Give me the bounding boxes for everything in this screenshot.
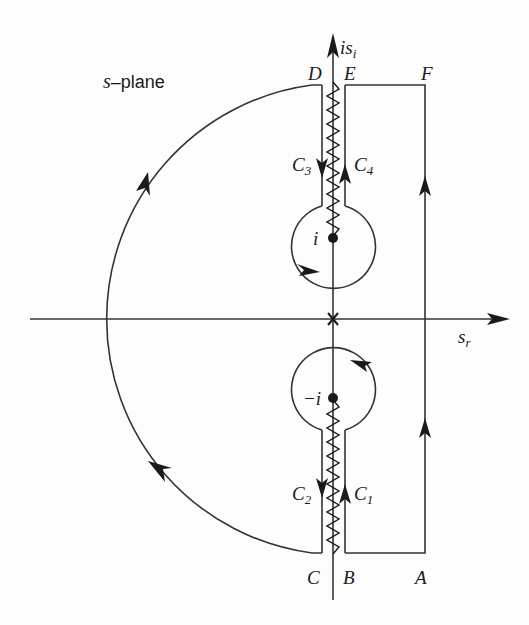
direction-arrows bbox=[136, 158, 431, 504]
contour-C3-label: C3 bbox=[292, 155, 311, 177]
pole-upper-label: i bbox=[313, 229, 318, 248]
pole-lower-label: −i bbox=[303, 389, 321, 408]
point-A: A bbox=[415, 568, 427, 587]
imag-axis-label: isi bbox=[340, 38, 356, 60]
point-B: B bbox=[343, 568, 355, 587]
real-axis-label: sr bbox=[458, 327, 470, 349]
contour-C4-label: C4 bbox=[354, 155, 373, 177]
point-F: F bbox=[421, 64, 433, 83]
contour-diagram: s–plane isi sr D E F C B A i −i C1 C2 C3… bbox=[0, 0, 529, 625]
contour-C1-label: C1 bbox=[354, 484, 373, 506]
point-E: E bbox=[344, 64, 356, 83]
point-D: D bbox=[308, 64, 322, 83]
real-axis bbox=[30, 313, 510, 325]
contour-C2-label: C2 bbox=[292, 484, 311, 506]
pole-lower-dot bbox=[328, 393, 338, 403]
diagram-canvas bbox=[0, 0, 529, 625]
point-C: C bbox=[307, 568, 320, 587]
plane-label: s–plane bbox=[103, 70, 165, 93]
arrow-right-icon bbox=[297, 264, 320, 276]
pole-upper-dot bbox=[328, 233, 338, 243]
